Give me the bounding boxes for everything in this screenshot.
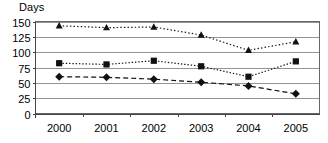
data-point-diamond — [197, 78, 205, 86]
data-point-square — [151, 58, 157, 64]
data-point-triangle — [56, 22, 63, 28]
data-point-diamond — [103, 73, 111, 81]
data-point-triangle — [150, 23, 157, 29]
data-point-triangle — [103, 24, 110, 30]
series-line — [59, 26, 296, 51]
y-tick-label: 50 — [18, 78, 30, 90]
data-series-group — [55, 22, 300, 98]
data-point-square — [293, 58, 299, 64]
y-tick-label: 100 — [12, 47, 30, 59]
data-point-square — [103, 61, 109, 67]
y-tick-label: 25 — [18, 93, 30, 105]
data-point-diamond — [55, 73, 63, 81]
line-chart: Days 0255075100125150 200020012002200320… — [0, 0, 328, 143]
x-axis-tick-labels: 200020012002200320042005 — [47, 122, 308, 134]
y-tick-label: 75 — [18, 63, 30, 75]
y-tick-label: 0 — [24, 109, 30, 121]
gridlines — [36, 23, 320, 99]
y-tick-label: 150 — [12, 17, 30, 29]
data-point-square — [245, 74, 251, 80]
chart-plot-area: 0255075100125150 20002001200220032004200… — [0, 0, 328, 143]
data-point-diamond — [292, 90, 300, 98]
data-point-square — [56, 60, 62, 66]
x-tick-label: 2001 — [94, 122, 118, 134]
plot-border — [36, 22, 320, 114]
x-tick-label: 2005 — [284, 122, 308, 134]
data-point-diamond — [150, 75, 158, 83]
series-diamond — [55, 73, 300, 98]
x-tick-label: 2000 — [47, 122, 71, 134]
x-tick-label: 2002 — [142, 122, 166, 134]
data-point-square — [198, 63, 204, 69]
data-point-triangle — [292, 38, 299, 44]
data-point-triangle — [198, 31, 205, 37]
y-tick-label: 125 — [12, 32, 30, 44]
plot-frame — [36, 22, 320, 118]
x-tick-label: 2004 — [236, 122, 260, 134]
series-line — [59, 77, 296, 94]
x-tick-label: 2003 — [189, 122, 213, 134]
y-axis-tick-labels: 0255075100125150 — [12, 17, 30, 121]
